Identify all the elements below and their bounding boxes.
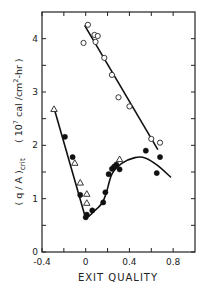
open-triangle-marker bbox=[84, 191, 90, 197]
fit-lines bbox=[54, 25, 171, 217]
filled-circle-marker bbox=[143, 148, 148, 153]
open-triangle-marker bbox=[72, 160, 78, 166]
tick-labels: -0.400.40.801234 bbox=[32, 34, 180, 267]
y-tick-label: 4 bbox=[32, 34, 38, 44]
open-circle-marker bbox=[95, 33, 100, 38]
filled-circle-marker bbox=[101, 200, 106, 205]
open-circle-marker bbox=[102, 55, 107, 60]
filled-circle-marker bbox=[154, 170, 159, 175]
y-tick-label: 3 bbox=[32, 87, 38, 97]
x-tick-label: -0.4 bbox=[33, 257, 51, 267]
open-triangle-marker bbox=[84, 200, 90, 206]
filled-circle-marker bbox=[157, 154, 162, 159]
filled-circle-marker bbox=[78, 192, 83, 197]
y-tick-label: 1 bbox=[32, 194, 38, 204]
fit-line bbox=[54, 108, 85, 215]
y-tick-label: 0 bbox=[32, 247, 38, 257]
filled-circle-marker bbox=[84, 212, 89, 217]
x-tick-label: 0.8 bbox=[166, 257, 181, 267]
open-circle-marker bbox=[149, 136, 154, 141]
data-points bbox=[51, 22, 163, 220]
y-axis-title: ( q / A )crit ( 107 cal /cm2-hr ) bbox=[12, 58, 27, 205]
open-triangle-marker bbox=[77, 179, 83, 185]
filled-circle-marker bbox=[114, 162, 119, 167]
y-axis-units-open: ( 10 bbox=[13, 124, 24, 143]
filled-circle-marker bbox=[70, 154, 75, 159]
filled-circle-marker bbox=[62, 134, 67, 139]
y-tick-label: 2 bbox=[32, 140, 38, 150]
x-axis-title: EXIT QUALITY bbox=[78, 272, 158, 283]
open-circle-marker bbox=[116, 95, 121, 100]
y-axis-units-mid: cal /cm bbox=[13, 83, 24, 120]
open-triangle-marker bbox=[51, 106, 57, 112]
chart: -0.400.40.801234 EXIT QUALITY ( q / A )c… bbox=[0, 0, 207, 289]
open-triangle-marker bbox=[116, 156, 122, 162]
open-circle-marker bbox=[157, 140, 162, 145]
y-axis-title-main: ( q / A ) bbox=[13, 170, 24, 205]
open-circle-marker bbox=[93, 39, 98, 44]
plot-frame bbox=[42, 12, 195, 252]
open-circle-marker bbox=[81, 40, 86, 45]
x-tick-label: 0.4 bbox=[122, 257, 137, 267]
svg-text:( q / A )crit ( 107 cal /c: ( q / A )crit ( 107 cal /cm2-hr ) bbox=[12, 58, 27, 205]
filled-circle-marker bbox=[106, 172, 111, 177]
y-axis-units-close: -hr ) bbox=[13, 58, 24, 78]
open-circle-marker bbox=[85, 22, 90, 27]
filled-circle-marker bbox=[90, 208, 95, 213]
axis-ticks bbox=[42, 12, 195, 252]
open-circle-marker bbox=[127, 104, 132, 109]
open-circle-marker bbox=[109, 72, 114, 77]
filled-circle-marker bbox=[103, 190, 108, 195]
y-axis-title-sub: crit bbox=[18, 158, 27, 170]
fit-line bbox=[85, 157, 171, 217]
filled-circle-marker bbox=[117, 167, 122, 172]
x-tick-label: 0 bbox=[83, 257, 89, 267]
